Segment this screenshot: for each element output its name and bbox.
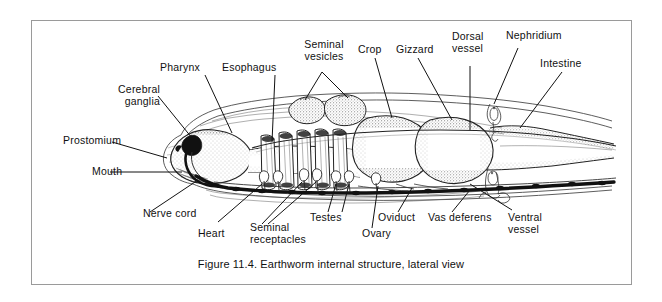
label-heart: Heart — [198, 228, 225, 240]
figure-container: Cerebral ganglia Pharynx Esophagus Semin… — [0, 0, 662, 302]
label-nerve-cord: Nerve cord — [143, 208, 196, 220]
label-seminal-vesicles: Seminal vesicles — [300, 39, 348, 62]
label-nephridium: Nephridium — [506, 30, 562, 42]
label-esophagus: Esophagus — [222, 62, 276, 74]
label-dorsal-vessel: Dorsal vessel — [452, 31, 492, 54]
label-mouth: Mouth — [92, 166, 122, 178]
label-seminal-receptacles: Seminal receptacles — [250, 222, 316, 245]
label-intestine: Intestine — [540, 58, 582, 70]
label-crop: Crop — [358, 44, 382, 56]
label-oviduct: Oviduct — [378, 212, 415, 224]
label-vas-deferens: Vas deferens — [428, 212, 492, 224]
label-gizzard: Gizzard — [396, 44, 434, 56]
label-ventral-vessel: Ventral vessel — [508, 212, 556, 235]
label-cerebral-ganglia: Cerebral ganglia — [104, 84, 160, 107]
figure-caption: Figure 11.4. Earthworm internal structur… — [0, 258, 662, 270]
label-pharynx: Pharynx — [160, 62, 200, 74]
label-ovary: Ovary — [362, 228, 391, 240]
label-prostomium: Prostomium — [63, 135, 121, 147]
label-testes: Testes — [310, 212, 342, 224]
